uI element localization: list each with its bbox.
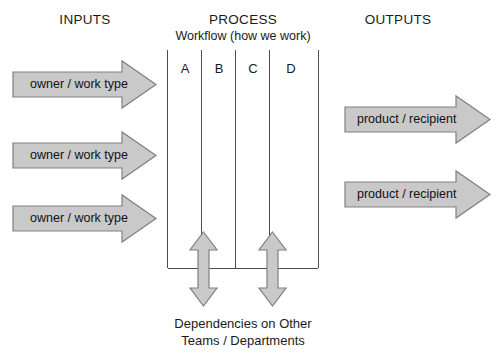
inputs-column-header: INPUTS <box>59 12 110 27</box>
outputs-column-header: OUTPUTS <box>365 12 432 27</box>
input-arrow-3-label: owner / work type <box>30 211 128 225</box>
process-lane-divider-4 <box>318 50 319 268</box>
dependency-arrow-2 <box>257 231 288 307</box>
input-arrow-2-label: owner / work type <box>30 148 128 162</box>
output-arrow-2-label: product / recipient <box>357 187 456 201</box>
input-arrow-1: owner / work type <box>12 60 158 109</box>
process-lane-label-a: A <box>181 61 190 76</box>
input-arrow-1-label: owner / work type <box>30 77 128 91</box>
process-column-header: PROCESS <box>209 12 277 27</box>
process-lane-divider-0 <box>167 50 168 268</box>
process-flow-diagram: INPUTS PROCESS Workflow (how we work) OU… <box>0 0 497 359</box>
input-arrow-3: owner / work type <box>12 194 158 243</box>
input-arrow-2: owner / work type <box>12 131 158 180</box>
process-lane-label-c: C <box>248 61 257 76</box>
process-lane-label-d: D <box>286 61 295 76</box>
output-arrow-2: product / recipient <box>344 170 492 219</box>
dependencies-caption-line-1: Dependencies on Other <box>174 316 311 331</box>
output-arrow-1: product / recipient <box>344 95 492 144</box>
process-lane-divider-2 <box>235 50 236 268</box>
process-lane-label-b: B <box>215 61 224 76</box>
dependencies-caption-line-2: Teams / Departments <box>181 333 305 348</box>
process-column-subtitle: Workflow (how we work) <box>175 29 310 43</box>
output-arrow-1-label: product / recipient <box>357 112 456 126</box>
dependency-arrow-1 <box>188 231 219 307</box>
